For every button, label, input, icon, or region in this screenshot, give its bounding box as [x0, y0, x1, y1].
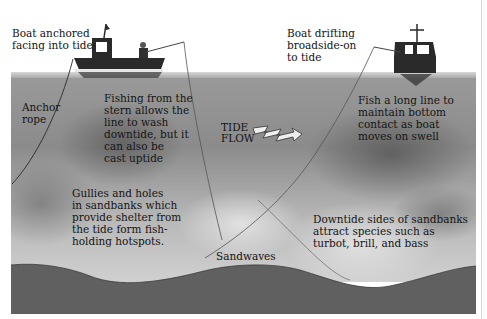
- label-fishing-stern: Fishing from the stern allows the line t…: [104, 92, 193, 164]
- label-boat-drifting: Boat drifting broadside-on to tide: [287, 27, 356, 63]
- page-edge-scrollbar[interactable]: [481, 0, 487, 319]
- seabed-sandwaves: [11, 264, 476, 314]
- label-sandwaves: Sandwaves: [216, 250, 276, 262]
- label-boat-anchored: Boat anchored facing into tide: [12, 27, 93, 51]
- drifting-boat-icon: [374, 24, 436, 86]
- label-anchor-rope: Anchor rope: [22, 101, 60, 125]
- label-long-line: Fish a long line to maintain bottom cont…: [358, 94, 454, 142]
- label-gullies: Gullies and holes in sandbanks which pro…: [72, 187, 181, 247]
- tide-flow-arrow-icon: [253, 126, 302, 141]
- label-downtide: Downtide sides of sandbanks attract spec…: [313, 213, 468, 249]
- label-tide-flow: TIDE FLOW: [221, 122, 255, 144]
